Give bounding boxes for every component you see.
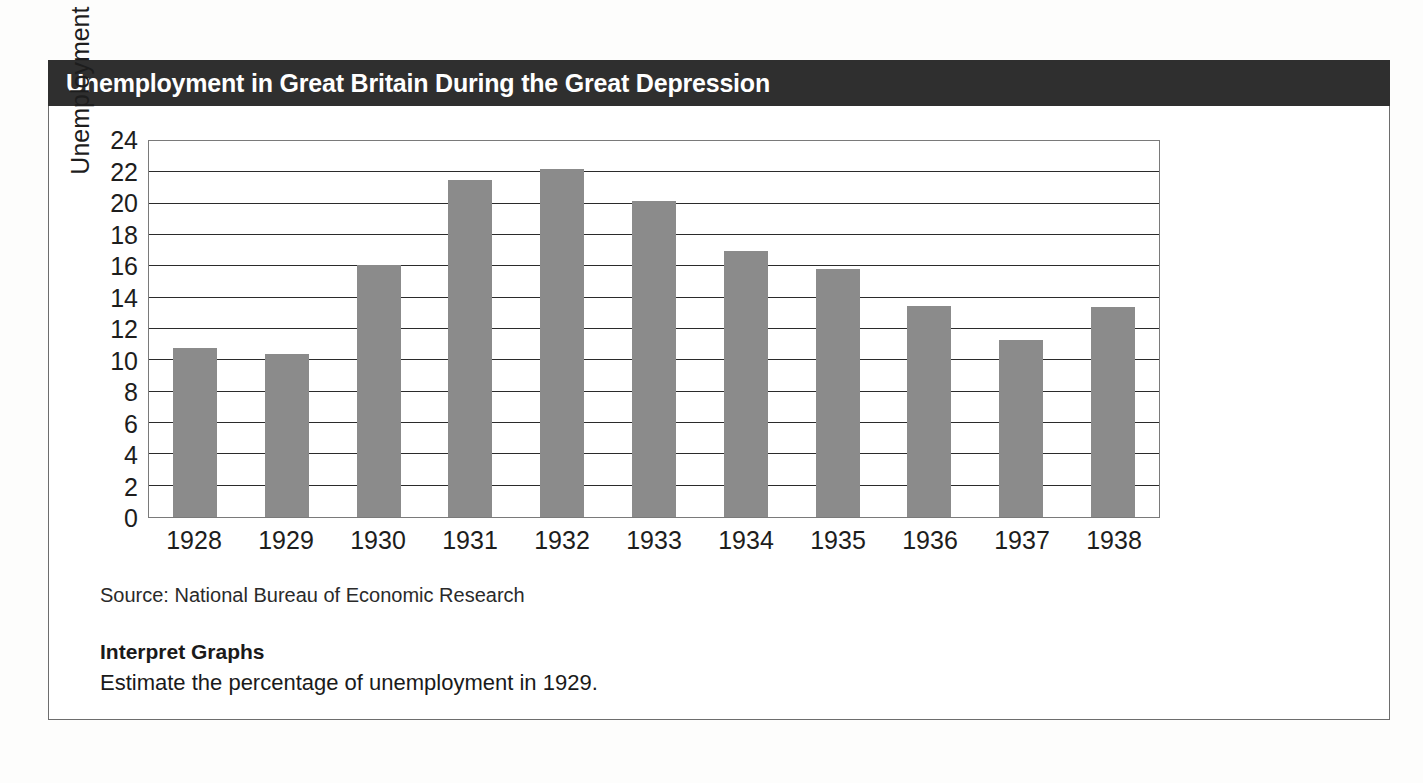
bar-1929 bbox=[265, 354, 309, 517]
bar-1938 bbox=[1091, 307, 1135, 517]
y-tick-label: 0 bbox=[124, 504, 138, 533]
bar-slot bbox=[975, 141, 1067, 517]
x-tick-label: 1937 bbox=[976, 526, 1068, 555]
caption-heading: Interpret Graphs bbox=[100, 640, 265, 664]
bar-slot bbox=[149, 141, 241, 517]
bar-slot bbox=[424, 141, 516, 517]
y-tick-label: 22 bbox=[110, 157, 138, 186]
bar-1936 bbox=[907, 306, 951, 518]
bar-1932 bbox=[540, 169, 584, 517]
bar-slot bbox=[700, 141, 792, 517]
y-tick-label: 20 bbox=[110, 189, 138, 218]
bar-slot bbox=[884, 141, 976, 517]
y-tick-label: 6 bbox=[124, 409, 138, 438]
y-tick-label: 10 bbox=[110, 346, 138, 375]
bar-1931 bbox=[448, 180, 492, 517]
y-tick-label: 14 bbox=[110, 283, 138, 312]
bar-slot bbox=[333, 141, 425, 517]
x-tick-label: 1929 bbox=[240, 526, 332, 555]
y-tick-label: 2 bbox=[124, 472, 138, 501]
bar-1934 bbox=[724, 251, 768, 517]
y-tick-label: 4 bbox=[124, 441, 138, 470]
bar-slot bbox=[1067, 141, 1159, 517]
y-tick-label: 12 bbox=[110, 315, 138, 344]
y-axis-label: Unemployment % bbox=[66, 0, 95, 246]
y-tick-label: 18 bbox=[110, 220, 138, 249]
bar-1935 bbox=[816, 269, 860, 517]
chart-container: Unemployment % 242220181614121086420 192… bbox=[48, 106, 1390, 720]
bar-series bbox=[149, 141, 1159, 517]
y-tick-label: 24 bbox=[110, 126, 138, 155]
chart-title-banner: Unemployment in Great Britain During the… bbox=[48, 60, 1390, 106]
plot-area bbox=[148, 140, 1160, 518]
bar-slot bbox=[608, 141, 700, 517]
chart-title: Unemployment in Great Britain During the… bbox=[48, 69, 770, 98]
bar-1930 bbox=[357, 265, 401, 517]
x-tick-label: 1931 bbox=[424, 526, 516, 555]
bar-1937 bbox=[999, 340, 1043, 517]
y-tick-label: 8 bbox=[124, 378, 138, 407]
bar-1928 bbox=[173, 348, 217, 517]
bar-slot bbox=[792, 141, 884, 517]
x-tick-label: 1934 bbox=[700, 526, 792, 555]
plot-outer: 242220181614121086420 bbox=[148, 140, 1160, 518]
y-tick-label: 16 bbox=[110, 252, 138, 281]
bar-1933 bbox=[632, 201, 676, 517]
source-note: Source: National Bureau of Economic Rese… bbox=[100, 584, 525, 607]
x-tick-label: 1938 bbox=[1068, 526, 1160, 555]
bar-slot bbox=[241, 141, 333, 517]
bar-slot bbox=[516, 141, 608, 517]
x-tick-label: 1936 bbox=[884, 526, 976, 555]
page-background: Unemployment in Great Britain During the… bbox=[0, 0, 1423, 783]
x-tick-label: 1932 bbox=[516, 526, 608, 555]
caption-question: Estimate the percentage of unemployment … bbox=[100, 670, 598, 696]
x-tick-label: 1928 bbox=[148, 526, 240, 555]
x-tick-label: 1930 bbox=[332, 526, 424, 555]
x-axis-ticks: 1928192919301931193219331934193519361937… bbox=[148, 526, 1160, 555]
x-tick-label: 1933 bbox=[608, 526, 700, 555]
x-tick-label: 1935 bbox=[792, 526, 884, 555]
